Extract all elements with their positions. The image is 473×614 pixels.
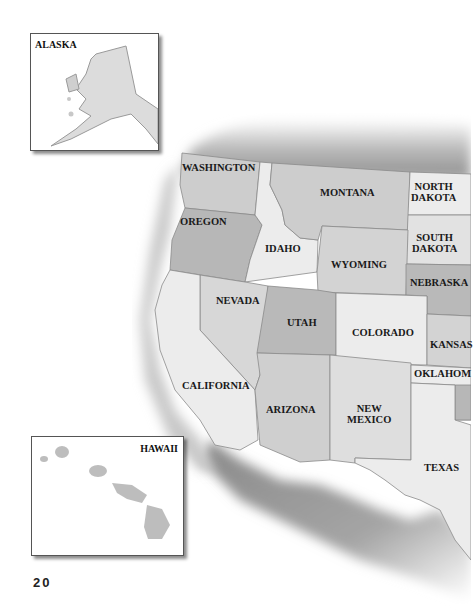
- hawaii-inset: HAWAII: [31, 436, 184, 556]
- hawaii-map: [32, 437, 183, 555]
- label-idaho: IDAHO: [265, 243, 301, 254]
- page-number: 20: [33, 575, 51, 590]
- label-oklahoma: OKLAHOM: [414, 368, 471, 379]
- label-montana: MONTANA: [320, 187, 375, 198]
- label-south-dakota: SOUTH DAKOTA: [412, 232, 457, 254]
- label-california: CALIFORNIA: [182, 380, 250, 391]
- label-washington: WASHINGTON: [182, 162, 255, 173]
- label-new-mexico: NEW MEXICO: [347, 403, 391, 425]
- label-wyoming: WYOMING: [331, 259, 387, 270]
- label-nevada: NEVADA: [216, 295, 260, 306]
- alaska-map: [31, 34, 158, 150]
- label-utah: UTAH: [287, 317, 317, 328]
- label-oregon: OREGON: [180, 216, 227, 227]
- alaska-label: ALASKA: [35, 39, 77, 50]
- label-texas: TEXAS: [424, 462, 459, 473]
- label-kansas: KANSAS: [430, 339, 473, 350]
- label-arizona: ARIZONA: [266, 404, 316, 415]
- hawaii-label: HAWAII: [140, 443, 178, 454]
- alaska-inset: ALASKA: [30, 33, 159, 151]
- label-colorado: COLORADO: [352, 327, 414, 338]
- label-nebraska: NEBRASKA: [410, 277, 468, 288]
- label-north-dakota: NORTH DAKOTA: [411, 181, 456, 203]
